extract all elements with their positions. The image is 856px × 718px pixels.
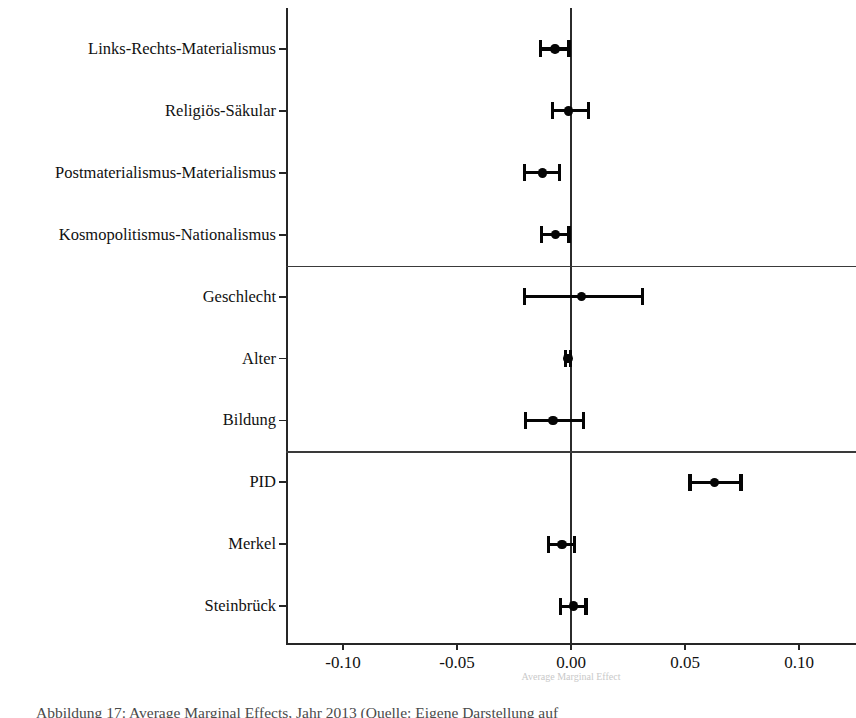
y-axis-label-alter: Alter [0, 351, 276, 368]
y-axis-label-steinbr-ck: Steinbrück [0, 598, 276, 615]
x-axis-tick [342, 643, 344, 650]
y-axis-spine [286, 8, 288, 645]
y-axis-tick [279, 172, 286, 174]
confidence-interval-cap-low [559, 598, 562, 615]
y-axis-label-merkel: Merkel [0, 536, 276, 553]
confidence-interval-cap-high [739, 474, 742, 491]
confidence-interval-cap-low [539, 40, 542, 57]
confidence-interval-cap-low [524, 412, 527, 429]
y-axis-tick [279, 358, 286, 360]
y-axis-label-pid: PID [0, 474, 276, 491]
point-estimate-marker [551, 230, 561, 240]
y-axis-tick [279, 234, 286, 236]
point-estimate-marker [548, 416, 558, 426]
confidence-interval-cap-low [688, 474, 691, 491]
point-estimate-marker [557, 540, 567, 550]
confidence-interval-cap-high [573, 536, 576, 553]
coefficient-plot-figure: -0.10-0.050.000.050.10 Average Marginal … [0, 0, 856, 718]
confidence-interval-cap-high [567, 40, 570, 57]
point-estimate-marker [550, 44, 560, 54]
y-axis-tick [279, 48, 286, 50]
point-estimate-marker [577, 292, 587, 302]
x-axis-tick [570, 643, 572, 650]
zero-reference-line [570, 8, 572, 643]
group-separator-line [286, 451, 856, 452]
y-axis-label-postmaterialismus-materialismus: Postmaterialismus-Materialismus [0, 165, 276, 182]
x-axis-title: Average Marginal Effect [286, 671, 856, 682]
x-axis-tick [456, 643, 458, 650]
x-axis-tick [684, 643, 686, 650]
y-axis-tick [279, 420, 286, 422]
point-estimate-marker [710, 478, 720, 488]
confidence-interval-cap-low [523, 288, 526, 305]
x-axis-tick-label: 0.05 [645, 653, 725, 673]
confidence-interval-cap-high [584, 598, 587, 615]
point-estimate-marker [538, 168, 548, 178]
y-axis-tick [279, 481, 286, 483]
y-axis-tick [279, 543, 286, 545]
confidence-interval-cap-low [523, 164, 526, 181]
group-separator-line [286, 266, 856, 267]
x-axis-tick-label: -0.10 [303, 653, 383, 673]
confidence-interval-cap-low [551, 102, 554, 119]
plot-area: -0.10-0.050.000.050.10 Average Marginal … [286, 8, 856, 645]
figure-caption: Abbildung 17: Average Marginal Effects, … [36, 704, 836, 718]
point-estimate-marker [564, 106, 574, 116]
y-axis-label-bildung: Bildung [0, 412, 276, 429]
y-axis-label-kosmopolitismus-nationalismus: Kosmopolitismus-Nationalismus [0, 227, 276, 244]
y-axis-label-geschlecht: Geschlecht [0, 289, 276, 306]
x-axis-tick-label: 0.10 [759, 653, 839, 673]
y-axis-tick [279, 296, 286, 298]
point-estimate-marker [569, 601, 579, 611]
x-axis-tick [798, 643, 800, 650]
y-axis-tick [279, 110, 286, 112]
x-axis-tick-label: -0.05 [417, 653, 497, 673]
confidence-interval-cap-high [558, 164, 561, 181]
confidence-interval-cap-high [582, 412, 585, 429]
confidence-interval-cap-low [547, 536, 550, 553]
x-axis-tick-label: 0.00 [531, 653, 611, 673]
point-estimate-marker [563, 354, 573, 364]
y-axis-label-links-rechts-materialismus: Links-Rechts-Materialismus [0, 41, 276, 58]
confidence-interval-cap-high [641, 288, 644, 305]
y-axis-tick [279, 605, 286, 607]
confidence-interval-cap-low [540, 226, 543, 243]
confidence-interval-cap-high [567, 226, 570, 243]
y-axis-label-religi-s-s-kular: Religiös-Säkular [0, 103, 276, 120]
confidence-interval-cap-high [587, 102, 590, 119]
